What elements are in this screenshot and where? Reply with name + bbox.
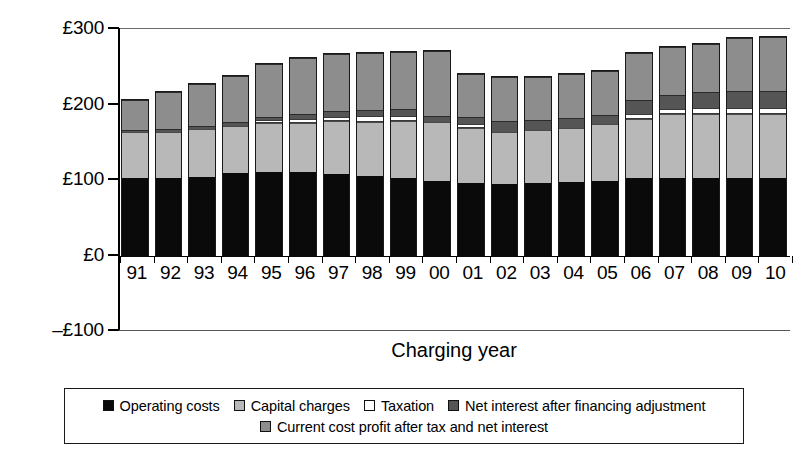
plot-bottom-border [118,330,790,331]
legend-row-primary: Operating costsCapital chargesTaxationNe… [73,398,735,414]
segment-operating-costs [357,176,383,257]
legend-item[interactable]: Current cost profit after tax and net in… [260,419,548,435]
segment-current-cost-profit [458,74,484,117]
segment-current-cost-profit [559,74,585,118]
segment-capital-charges [525,130,551,183]
legend-swatch-icon [364,400,375,411]
segment-capital-charges [324,121,350,174]
legend-item[interactable]: Taxation [364,398,434,414]
x-axis-labels: 9192939495969798990001020304050607080910 [118,262,790,286]
segment-net-interest [592,115,618,124]
segment-net-interest [626,100,652,114]
segment-net-interest [492,121,518,132]
segment-operating-costs [256,172,282,257]
segment-current-cost-profit [122,100,148,130]
bar-92 [155,91,183,256]
x-axis-label-91: 91 [120,262,154,284]
x-axis-label-95: 95 [254,262,288,284]
bar-03 [524,76,552,256]
legend-item[interactable]: Capital charges [234,398,350,414]
segment-current-cost-profit [525,77,551,119]
segment-capital-charges [693,114,719,177]
bar-99 [390,51,418,256]
segment-current-cost-profit [156,92,182,129]
legend-swatch-icon [448,400,459,411]
segment-current-cost-profit [324,54,350,111]
segment-operating-costs [189,177,215,257]
segment-current-cost-profit [424,51,450,116]
segment-net-interest [559,118,585,128]
segment-operating-costs [660,178,686,257]
bar-94 [222,75,250,256]
segment-capital-charges [458,128,484,183]
segment-current-cost-profit [592,71,618,116]
segment-operating-costs [458,183,484,257]
segment-capital-charges [626,119,652,178]
x-axis-label-01: 01 [456,262,490,284]
bar-00 [423,50,451,256]
x-axis-label-10: 10 [758,262,792,284]
bar-series-group [120,28,790,256]
segment-current-cost-profit [189,84,215,126]
segment-capital-charges [492,132,518,183]
x-axis-title: Charging year [118,338,790,362]
x-axis-label-08: 08 [691,262,725,284]
segment-capital-charges [424,122,450,181]
x-axis-label-98: 98 [355,262,389,284]
y-axis-tick [108,27,119,29]
segment-operating-costs [559,182,585,257]
bar-98 [356,52,384,256]
segment-current-cost-profit [492,77,518,121]
legend-item[interactable]: Operating costs [103,398,220,414]
segment-capital-charges [391,121,417,178]
segment-operating-costs [727,178,753,257]
legend-swatch-icon [260,421,271,432]
segment-capital-charges [223,126,249,174]
y-axis-tick-label: £0 [0,245,104,264]
segment-current-cost-profit [256,64,282,116]
legend-item[interactable]: Net interest after financing adjustment [448,398,705,414]
x-axis-label-07: 07 [658,262,692,284]
segment-operating-costs [760,178,786,257]
segment-current-cost-profit [760,37,786,91]
segment-capital-charges [256,123,282,171]
x-axis-label-99: 99 [389,262,423,284]
y-axis-tick-label: £300 [0,18,104,37]
legend-swatch-icon [103,400,114,411]
bar-06 [625,52,653,256]
bar-91 [121,99,149,256]
y-axis-tick [108,329,119,331]
y-axis-tick-label: £200 [0,94,104,113]
segment-capital-charges [189,129,215,177]
segment-current-cost-profit [223,76,249,122]
x-axis-label-02: 02 [490,262,524,284]
legend-row-secondary: Current cost profit after tax and net in… [73,419,735,435]
segment-capital-charges [559,128,585,182]
segment-capital-charges [156,132,182,179]
bar-08 [692,43,720,256]
y-axis-tick [108,178,119,180]
x-axis-label-05: 05 [590,262,624,284]
segment-capital-charges [592,124,618,181]
x-axis-label-94: 94 [221,262,255,284]
bar-97 [323,53,351,256]
x-axis-label-96: 96 [288,262,322,284]
segment-current-cost-profit [290,58,316,114]
y-axis-tick-label: –£100 [0,320,104,339]
x-axis-label-97: 97 [322,262,356,284]
legend-label: Capital charges [251,398,350,414]
segment-operating-costs [290,172,316,257]
bar-07 [659,46,687,256]
segment-capital-charges [357,122,383,176]
x-axis-label-04: 04 [557,262,591,284]
x-axis-label-03: 03 [523,262,557,284]
y-axis-tick [108,103,119,105]
bar-02 [491,76,519,256]
segment-capital-charges [660,114,686,177]
segment-net-interest [760,91,786,108]
x-axis-label-00: 00 [422,262,456,284]
segment-current-cost-profit [357,53,383,110]
segment-operating-costs [223,173,249,257]
segment-operating-costs [592,181,618,257]
segment-current-cost-profit [693,44,719,92]
